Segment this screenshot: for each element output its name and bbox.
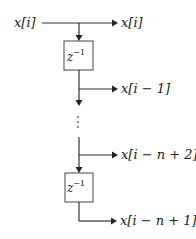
- delay-line-diagram: x[i] x[i] z−1 x[i − 1] x[i − n + 2] z−1 …: [0, 0, 196, 239]
- input-label: x[i]: [14, 15, 37, 30]
- output-label-2: x[i − n + 2]: [121, 147, 196, 162]
- ellipsis-dot: [77, 126, 79, 128]
- output-label-0: x[i]: [121, 15, 144, 30]
- arrow-head-icon: [76, 100, 83, 106]
- arrow-head-icon: [112, 20, 118, 27]
- output-label-3: x[i − n + 1]: [120, 213, 196, 228]
- arrow-head-icon: [111, 218, 117, 225]
- arrow-head-icon: [76, 35, 83, 41]
- ellipsis-dot: [77, 116, 79, 118]
- output-label-1: x[i − 1]: [121, 81, 171, 96]
- arrow-head-icon: [76, 167, 83, 173]
- ellipsis-dot: [77, 121, 79, 123]
- arrow-head-icon: [112, 86, 118, 93]
- arrow-head-icon: [112, 152, 118, 159]
